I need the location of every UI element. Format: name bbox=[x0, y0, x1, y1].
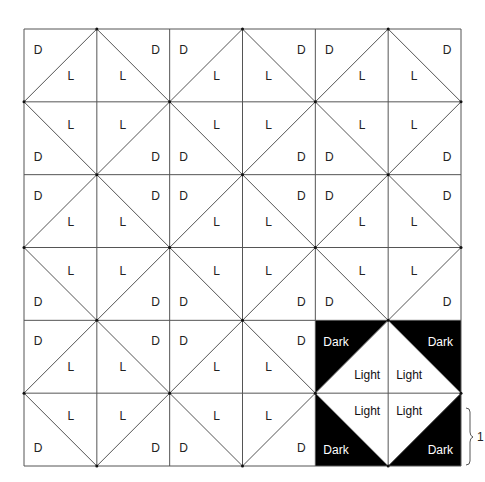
cell-diagonal bbox=[24, 393, 97, 466]
cell-diagonal bbox=[243, 393, 316, 466]
light-label: L bbox=[67, 215, 74, 229]
dark-label: D bbox=[179, 441, 188, 455]
dark-label: D bbox=[297, 43, 306, 57]
light-label: L bbox=[67, 409, 74, 423]
light-label: L bbox=[265, 69, 272, 83]
light-label: L bbox=[67, 69, 74, 83]
light-label: L bbox=[67, 118, 74, 132]
light-label: L bbox=[119, 409, 126, 423]
light-label: L bbox=[67, 264, 74, 278]
dark-label: D bbox=[325, 43, 334, 57]
dark-label: D bbox=[325, 295, 334, 309]
dark-label: D bbox=[151, 43, 160, 57]
light-label: L bbox=[119, 118, 126, 132]
dark-label: D bbox=[179, 150, 188, 164]
light-label: L bbox=[119, 215, 126, 229]
cell-diagonal bbox=[97, 320, 170, 393]
vertex-dot bbox=[23, 246, 26, 249]
cell-diagonal bbox=[315, 175, 388, 248]
light-label: L bbox=[359, 215, 366, 229]
vertex-dot bbox=[241, 465, 244, 468]
light-label: L bbox=[265, 118, 272, 132]
cell-diagonal bbox=[97, 393, 170, 466]
cell-diagonal bbox=[170, 175, 243, 248]
dark-label: D bbox=[34, 441, 43, 455]
dark-label: D bbox=[297, 150, 306, 164]
vertex-dot bbox=[387, 173, 390, 176]
dark-label: D bbox=[151, 334, 160, 348]
vertex-dot bbox=[241, 173, 244, 176]
light-label: L bbox=[359, 264, 366, 278]
quilt-diagram: DLDLDLDLDLDLDLDLDLDLDLDLDLDLDLDLDLDLDLDL… bbox=[0, 0, 485, 482]
dark-label: D bbox=[151, 441, 160, 455]
light-label: L bbox=[213, 118, 220, 132]
cell-diagonal bbox=[97, 248, 170, 321]
cell-diagonal bbox=[243, 102, 316, 175]
vertex-dot bbox=[387, 28, 390, 31]
unit-brace: 1 bbox=[466, 408, 484, 465]
cell-diagonal bbox=[170, 29, 243, 102]
cell-diagonal bbox=[243, 248, 316, 321]
cell-diagonal bbox=[24, 29, 97, 102]
cell-diagonal bbox=[243, 175, 316, 248]
light-label: L bbox=[411, 118, 418, 132]
brace-label: 1 bbox=[477, 430, 484, 444]
light-label: Light bbox=[354, 368, 381, 382]
dark-label: D bbox=[443, 43, 452, 57]
cell-diagonal bbox=[24, 320, 97, 393]
cell-diagonal bbox=[170, 320, 243, 393]
vertex-dot bbox=[168, 246, 171, 249]
vertex-dot bbox=[23, 100, 26, 103]
cell-diagonal bbox=[315, 29, 388, 102]
light-label: L bbox=[265, 215, 272, 229]
light-label: Light bbox=[396, 368, 423, 382]
dark-label: D bbox=[297, 295, 306, 309]
vertex-dot bbox=[314, 392, 317, 395]
vertex-dot bbox=[460, 392, 463, 395]
light-label: L bbox=[67, 360, 74, 374]
light-label: L bbox=[265, 264, 272, 278]
light-label: L bbox=[411, 215, 418, 229]
cell-diagonal bbox=[24, 248, 97, 321]
light-label: L bbox=[213, 264, 220, 278]
cell-diagonal bbox=[315, 102, 388, 175]
light-label: L bbox=[265, 409, 272, 423]
dark-label: D bbox=[297, 334, 306, 348]
dark-label: D bbox=[325, 189, 334, 203]
vertex-dot bbox=[95, 465, 98, 468]
cell-diagonal bbox=[170, 393, 243, 466]
dark-label: Dark bbox=[323, 335, 349, 349]
dark-label: D bbox=[34, 295, 43, 309]
cell-diagonal bbox=[170, 248, 243, 321]
cell-diagonal bbox=[24, 102, 97, 175]
vertex-dot bbox=[168, 392, 171, 395]
cell-diagonal bbox=[97, 175, 170, 248]
cell-diagonal bbox=[388, 102, 461, 175]
vertex-dot bbox=[241, 319, 244, 322]
vertex-dot bbox=[95, 319, 98, 322]
vertex-dot bbox=[168, 100, 171, 103]
vertex-dot bbox=[460, 100, 463, 103]
cell-diagonal bbox=[24, 175, 97, 248]
brace-icon bbox=[466, 408, 473, 465]
vertex-dot bbox=[241, 28, 244, 31]
cell-diagonal bbox=[243, 29, 316, 102]
cell-diagonal bbox=[97, 102, 170, 175]
dark-label: D bbox=[325, 150, 334, 164]
light-label: L bbox=[411, 264, 418, 278]
dark-label: Dark bbox=[428, 443, 454, 457]
dark-label: D bbox=[179, 189, 188, 203]
dark-label: D bbox=[34, 43, 43, 57]
cell-diagonal bbox=[170, 102, 243, 175]
dark-label: D bbox=[179, 295, 188, 309]
dark-label: D bbox=[443, 150, 452, 164]
dark-label: D bbox=[179, 43, 188, 57]
cell-diagonal bbox=[97, 29, 170, 102]
light-label: Light bbox=[354, 404, 381, 418]
dark-label: D bbox=[179, 334, 188, 348]
light-label: L bbox=[119, 360, 126, 374]
dark-label: D bbox=[151, 295, 160, 309]
dark-label: D bbox=[297, 441, 306, 455]
dark-label: D bbox=[34, 334, 43, 348]
dark-label: D bbox=[297, 189, 306, 203]
